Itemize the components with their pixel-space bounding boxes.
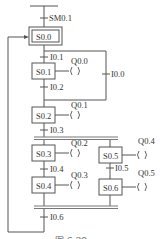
transition-label-i04: I0.4 — [50, 164, 64, 174]
step-label-s05: S0.5 — [103, 151, 118, 161]
action-label-q00: Q0.0 — [71, 56, 88, 66]
action-label-q05: Q0.5 — [138, 168, 155, 178]
step-label-s01: S0.1 — [36, 67, 51, 77]
coil-q00-right-icon — [78, 67, 80, 75]
transition-label-i05: I0.5 — [115, 163, 128, 173]
coil-q04-left-icon — [138, 151, 140, 159]
coil-q04-right-icon — [145, 151, 147, 159]
action-label-q01: Q0.1 — [71, 100, 88, 110]
transition-label-i03: I0.3 — [50, 125, 63, 135]
action-label-q04: Q0.4 — [138, 136, 156, 146]
step-label-s02: S0.2 — [36, 111, 51, 121]
arrow-head-icon — [24, 35, 29, 39]
transition-label-i00: I0.0 — [111, 69, 124, 79]
coil-q05-right-icon — [145, 183, 147, 191]
step-label-s03: S0.3 — [36, 149, 51, 159]
coil-q00-left-icon — [71, 67, 73, 75]
transition-label-sm01: SM0.1 — [49, 13, 72, 23]
step-label-s04: S0.4 — [36, 181, 52, 191]
transition-label-i01: I0.1 — [50, 52, 63, 62]
coil-q01-left-icon — [71, 111, 73, 119]
coil-q03-left-icon — [71, 181, 73, 189]
figure-caption: 图 6-29 — [55, 236, 87, 239]
coil-q03-right-icon — [78, 181, 80, 189]
sfc-diagram: S0.0 S0.1 S0.2 S0.3 S0.4 S0.5 S0.6 Q0.0 … — [0, 0, 161, 239]
action-label-q03: Q0.3 — [71, 170, 88, 180]
step-label-s06: S0.6 — [103, 183, 118, 193]
transition-label-i02: I0.2 — [50, 82, 63, 92]
coil-q01-right-icon — [78, 111, 80, 119]
step-label-s00: S0.0 — [36, 32, 51, 42]
coil-q05-left-icon — [138, 183, 140, 191]
coil-q02-right-icon — [78, 149, 80, 157]
action-label-q02: Q0.2 — [71, 138, 88, 148]
coil-q02-left-icon — [71, 149, 73, 157]
transition-label-i06: I0.6 — [50, 212, 63, 222]
